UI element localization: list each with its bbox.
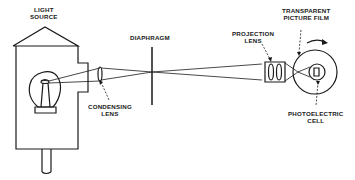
label-photoelectric-cell: PHOTOELECTRIC CELL bbox=[288, 110, 343, 124]
label-projection-lens: PROJECTION LENS bbox=[232, 30, 274, 44]
diagram-drawing bbox=[0, 0, 355, 180]
photoelectric-cell-icon bbox=[309, 64, 325, 80]
rotation-arrow-icon bbox=[307, 39, 328, 45]
condensing-lens-icon bbox=[98, 67, 102, 81]
lamp-housing bbox=[13, 27, 88, 149]
leader-condensing-lens bbox=[101, 82, 109, 100]
label-light-source: LIGHT SOURCE bbox=[30, 6, 58, 20]
projection-photocell-diagram: LIGHT SOURCE CONDENSING LENS DIAPHRAGM P… bbox=[0, 0, 355, 180]
label-transparent-picture-film: TRANSPARENT PICTURE FILM bbox=[282, 7, 331, 21]
label-diaphragm: DIAPHRAGM bbox=[130, 34, 170, 41]
light-rays-through-diaphragm bbox=[101, 64, 262, 80]
stand-post-icon bbox=[42, 149, 51, 174]
leader-film bbox=[299, 30, 301, 53]
label-condensing-lens: CONDENSING LENS bbox=[88, 103, 132, 117]
light-rays-to-photocell bbox=[285, 63, 310, 81]
projection-lens-icon bbox=[265, 62, 285, 82]
picture-film-disc-icon bbox=[293, 50, 337, 94]
leader-projection-lens bbox=[262, 44, 270, 59]
light-bulb-icon bbox=[29, 72, 60, 113]
